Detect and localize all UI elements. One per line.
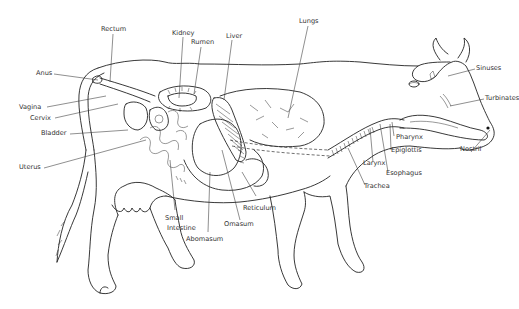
- label-liver: Liver: [226, 33, 242, 40]
- label-bladder: Bladder: [41, 130, 67, 137]
- label-nostril: Nostril: [460, 146, 481, 153]
- label-esophagus: Esophagus: [386, 170, 422, 177]
- label-small-intestine-line1: Small: [165, 215, 183, 222]
- label-kidney: Kidney: [172, 30, 194, 37]
- label-abomasum: Abomasum: [186, 236, 223, 243]
- label-rectum: Rectum: [101, 26, 126, 33]
- label-trachea: Trachea: [364, 183, 390, 190]
- label-pharynx: Pharynx: [396, 134, 423, 141]
- leader-lines: [44, 26, 490, 232]
- label-cervix: Cervix: [30, 115, 51, 122]
- label-lungs: Lungs: [299, 18, 319, 25]
- stomach-intestine-drawing: [140, 110, 268, 190]
- label-omasum: Omasum: [224, 221, 254, 228]
- label-small-intestine-line2: Intestine: [167, 225, 196, 232]
- label-epiglottis: Epiglottis: [391, 147, 422, 154]
- label-rumen: Rumen: [191, 39, 214, 46]
- label-anus: Anus: [36, 70, 52, 77]
- cow-body-outline: [56, 38, 494, 294]
- label-uterus: Uterus: [19, 164, 41, 171]
- reproductive-tract-drawing: [93, 76, 168, 131]
- label-vagina: Vagina: [19, 104, 41, 111]
- label-reticulum: Reticulum: [243, 205, 276, 212]
- kidney-rumen-drawing: [158, 86, 210, 112]
- label-turbinates: Turbinates: [485, 95, 519, 102]
- label-larynx: Larynx: [363, 160, 385, 167]
- label-sinuses: Sinuses: [476, 65, 501, 72]
